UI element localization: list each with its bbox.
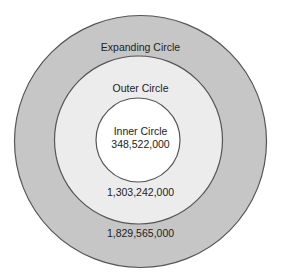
expanding-circle-label: Expanding Circle <box>0 41 281 53</box>
inner-circle-value: 348,522,000 <box>0 138 281 150</box>
outer-circle-value: 1,303,242,000 <box>0 186 281 198</box>
expanding-circle-value: 1,829,565,000 <box>0 227 281 239</box>
outer-circle-label: Outer Circle <box>0 82 281 94</box>
inner-circle-label: Inner Circle <box>0 125 281 137</box>
